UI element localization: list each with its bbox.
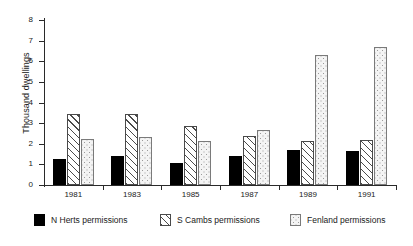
legend-item-2: S Cambs permissions bbox=[160, 214, 260, 226]
x-separator-tick bbox=[396, 185, 397, 190]
y-tick-label-3: 3 bbox=[0, 119, 33, 127]
bar-1991-hatch bbox=[360, 140, 373, 185]
x-tick-label-1981: 1981 bbox=[44, 190, 103, 199]
x-tick-label-1987: 1987 bbox=[220, 190, 279, 199]
chart-legend: N Herts permissionsS Cambs permissionsFe… bbox=[0, 214, 413, 236]
y-tick-label-2: 2 bbox=[0, 140, 33, 148]
bar-1985-solid bbox=[170, 163, 183, 185]
bar-1989-dots bbox=[315, 55, 328, 185]
bar-1981-dots bbox=[81, 139, 94, 185]
y-tick-label-4: 4 bbox=[0, 99, 33, 107]
bar-chart-figure: Thousand dwellings 012345678 19811983198… bbox=[0, 0, 413, 246]
bar-1987-hatch bbox=[243, 136, 256, 186]
x-tick-label-1985: 1985 bbox=[161, 190, 220, 199]
bar-group-1985 bbox=[161, 20, 220, 185]
bar-1991-solid bbox=[346, 151, 359, 185]
bar-1983-hatch bbox=[125, 114, 138, 185]
legend-swatch-dots bbox=[290, 214, 301, 226]
bar-1983-dots bbox=[139, 137, 152, 185]
bar-1987-dots bbox=[257, 130, 270, 185]
legend-label: N Herts permissions bbox=[51, 215, 128, 225]
bar-group-1991 bbox=[337, 20, 396, 185]
bar-group-1989 bbox=[279, 20, 338, 185]
bar-1981-hatch bbox=[67, 114, 80, 185]
x-tick-label-1983: 1983 bbox=[103, 190, 162, 199]
bar-1989-hatch bbox=[301, 141, 314, 185]
bar-1985-hatch bbox=[184, 126, 197, 185]
legend-label: Fenland permissions bbox=[307, 215, 385, 225]
bar-1991-dots bbox=[374, 47, 387, 185]
bar-1981-solid bbox=[53, 159, 66, 185]
legend-swatch-solid bbox=[34, 214, 45, 226]
bar-group-1987 bbox=[220, 20, 279, 185]
x-tick-label-1991: 1991 bbox=[337, 190, 396, 199]
bar-1987-solid bbox=[229, 156, 242, 185]
bar-group-1983 bbox=[103, 20, 162, 185]
plot-area bbox=[44, 20, 396, 185]
legend-item-3: Fenland permissions bbox=[290, 214, 385, 226]
y-tick-label-8: 8 bbox=[0, 16, 33, 24]
bar-1983-solid bbox=[111, 156, 124, 185]
bar-1989-solid bbox=[287, 150, 300, 185]
y-tick-0 bbox=[39, 185, 44, 186]
legend-swatch-hatch bbox=[160, 214, 171, 226]
y-tick-label-7: 7 bbox=[0, 37, 33, 45]
bar-group-1981 bbox=[44, 20, 103, 185]
y-tick-label-5: 5 bbox=[0, 78, 33, 86]
y-tick-label-1: 1 bbox=[0, 160, 33, 168]
legend-label: S Cambs permissions bbox=[177, 215, 260, 225]
y-tick-label-6: 6 bbox=[0, 57, 33, 65]
legend-item-1: N Herts permissions bbox=[34, 214, 128, 226]
x-tick-label-1989: 1989 bbox=[279, 190, 338, 199]
y-tick-label-0: 0 bbox=[0, 181, 33, 189]
bar-1985-dots bbox=[198, 141, 211, 185]
